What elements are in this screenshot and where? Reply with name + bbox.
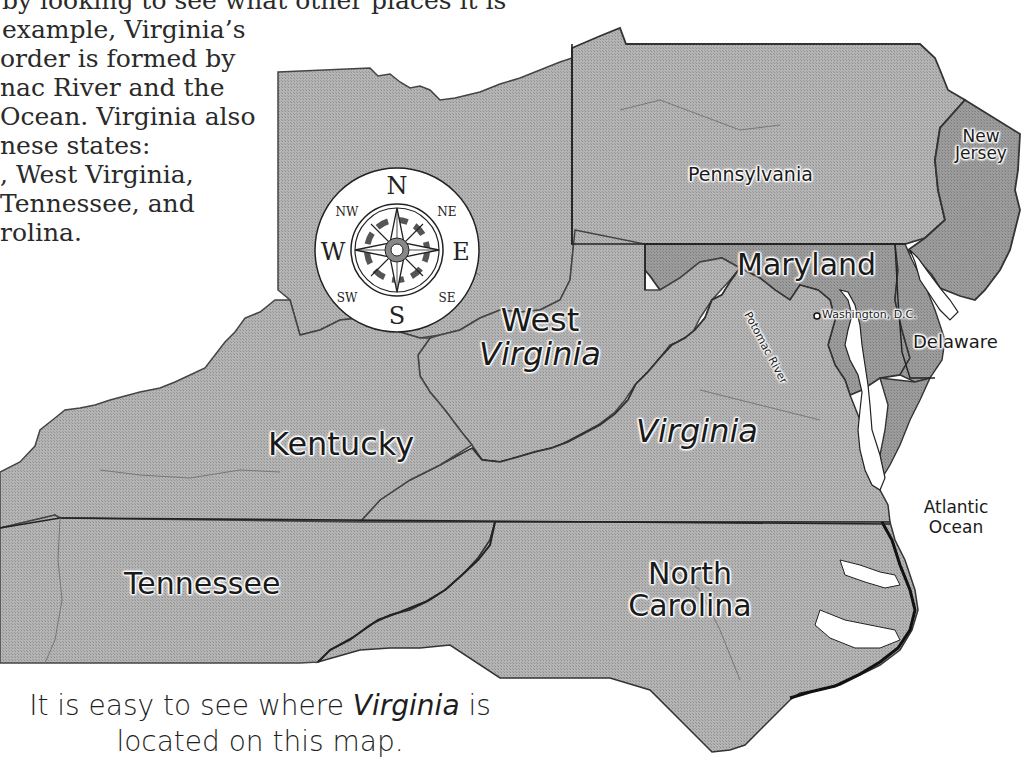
label-atlantic-ocean: Atlantic Ocean (906, 497, 1006, 537)
compass-s: S (389, 302, 405, 330)
label-virginia: Virginia (636, 415, 758, 447)
caption-emphasis: Virginia (353, 689, 460, 722)
label-washington-dc: Washington, D.C. (822, 309, 917, 320)
label-new-jersey: New Jersey (941, 128, 1021, 162)
caption-prefix: It is easy to see where (29, 689, 353, 722)
eastern-shore (880, 378, 930, 478)
label-pennsylvania: Pennsylvania (688, 165, 813, 184)
label-tennessee: Tennessee (124, 569, 280, 599)
label-north-carolina: North Carolina (610, 558, 770, 622)
label-atlantic-line1: Atlantic (906, 497, 1006, 517)
label-north-carolina-line1: North (610, 558, 770, 590)
caption-line1: It is easy to see where Virginia is (0, 688, 520, 724)
compass-n: N (387, 172, 408, 200)
compass-w: W (321, 238, 346, 266)
label-north-carolina-line2: Carolina (610, 590, 770, 622)
map-page: by looking to see what other places it i… (0, 0, 1024, 773)
compass-nw: NW (336, 205, 360, 219)
label-west-virginia-line1: West (475, 303, 605, 337)
map-caption: It is easy to see where Virginia is loca… (0, 688, 520, 760)
label-delaware: Delaware (913, 333, 998, 351)
label-new-jersey-line2: Jersey (941, 145, 1021, 162)
compass-sw: SW (337, 291, 358, 305)
washington-dc-marker-icon (814, 313, 820, 319)
compass-rose: N S E W NE NW SE SW (315, 168, 479, 332)
label-west-virginia: West Virginia (475, 303, 605, 371)
regional-map: N S E W NE NW SE SW (0, 0, 1024, 773)
label-maryland: Maryland (737, 250, 876, 280)
compass-e: E (452, 238, 470, 266)
label-west-virginia-line2: Virginia (475, 337, 605, 371)
caption-suffix: is (460, 689, 491, 722)
state-pennsylvania[interactable] (572, 28, 965, 244)
label-kentucky: Kentucky (268, 428, 414, 460)
label-atlantic-line2: Ocean (906, 517, 1006, 537)
caption-line2: located on this map. (0, 724, 520, 760)
compass-se: SE (439, 291, 456, 305)
compass-ne: NE (437, 205, 456, 219)
